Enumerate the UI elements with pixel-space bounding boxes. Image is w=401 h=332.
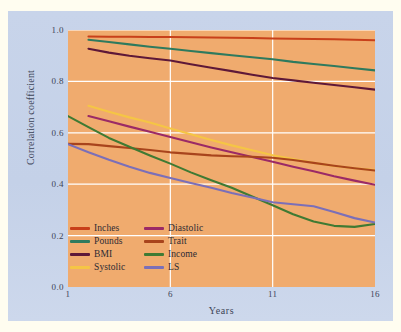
legend-label: LS [168, 263, 179, 273]
y-tick-label: 0.0 [28, 283, 64, 292]
y-tick-label: 0.2 [28, 231, 64, 240]
legend-entry-inches[interactable]: Inches [70, 222, 144, 235]
legend-label: Income [168, 250, 197, 260]
legend-swatch-icon [144, 253, 164, 256]
legend-entry-bmi[interactable]: BMI [70, 248, 144, 261]
legend-entry-trait[interactable]: Trait [144, 235, 230, 248]
y-tick-label: 1.0 [28, 26, 64, 35]
legend-entry-income[interactable]: Income [144, 248, 230, 261]
series-line-inches [88, 36, 375, 40]
legend-label: Diastolic [168, 224, 203, 234]
legend-swatch-icon [70, 266, 90, 269]
x-axis-title: Years [68, 305, 375, 316]
legend-swatch-icon [70, 227, 90, 230]
legend-swatch-icon [70, 253, 90, 256]
legend-label: BMI [94, 250, 112, 260]
legend-label: Systolic [94, 263, 125, 273]
legend-entry-pounds[interactable]: Pounds [70, 235, 144, 248]
legend-label: Pounds [94, 237, 123, 247]
x-tick-label: 16 [370, 290, 380, 299]
x-tick-label: 11 [268, 290, 277, 299]
legend-swatch-icon [144, 227, 164, 230]
legend-swatch-icon [144, 240, 164, 243]
legend-label: Trait [168, 237, 187, 247]
legend-label: Inches [94, 224, 119, 234]
legend-entry-systolic[interactable]: Systolic [70, 261, 144, 274]
chart-figure: 0.00.20.40.60.81.0 Correlation coefficie… [0, 0, 401, 332]
x-tick-label: 6 [168, 290, 173, 299]
series-line-diastolic [88, 116, 375, 185]
x-tick-label: 1 [66, 290, 71, 299]
legend-swatch-icon [70, 240, 90, 243]
series-line-systolic [88, 106, 375, 170]
chart-legend: InchesDiastolicPoundsTraitBMIIncomeSysto… [70, 222, 230, 274]
x-axis-tick-labels: 161116 [68, 290, 375, 304]
legend-entry-ls[interactable]: LS [144, 261, 230, 274]
series-line-trait [68, 144, 375, 171]
legend-swatch-icon [144, 266, 164, 269]
y-axis-title: Correlation coefficient [25, 38, 36, 198]
legend-entry-diastolic[interactable]: Diastolic [144, 222, 230, 235]
